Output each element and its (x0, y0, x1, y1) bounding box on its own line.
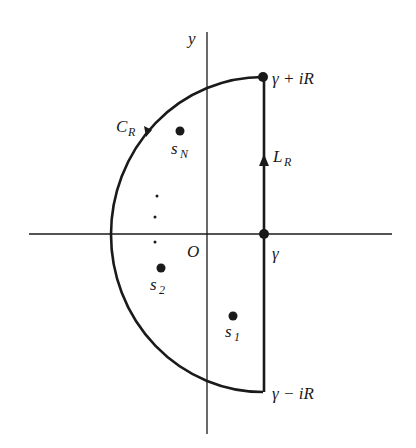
arc-label: C R (116, 117, 136, 139)
svg-text:s: s (171, 139, 178, 158)
contour-diagram: y O γ γ + iR γ − iR C R L R s N s 2 s 1 (0, 0, 416, 448)
y-axis-label: y (186, 29, 196, 48)
s-2-label: s 2 (150, 275, 165, 297)
s-1-label: s 1 (225, 322, 240, 344)
singularity-s-1 (229, 312, 238, 321)
gamma-label: γ (272, 244, 280, 263)
ellipsis-dot (154, 241, 157, 244)
svg-text:C: C (116, 117, 128, 136)
svg-text:1: 1 (234, 330, 240, 344)
svg-text:2: 2 (159, 283, 165, 297)
ellipsis-dot (156, 195, 159, 198)
svg-text:L: L (272, 147, 282, 166)
point-gamma (259, 229, 269, 239)
svg-text:s: s (150, 275, 157, 294)
line-arrow-icon (259, 154, 269, 166)
ellipsis-dot (154, 216, 157, 219)
s-n-label: s N (171, 139, 189, 161)
singularity-s-n (176, 127, 185, 136)
line-label: L R (272, 147, 292, 169)
svg-text:R: R (127, 125, 136, 139)
svg-text:R: R (283, 155, 292, 169)
bottom-point-label: γ − iR (272, 384, 314, 403)
diagram-canvas: y O γ γ + iR γ − iR C R L R s N s 2 s 1 (0, 0, 416, 448)
point-top (258, 72, 268, 82)
origin-label: O (187, 242, 199, 261)
singularity-s-2 (157, 264, 166, 273)
svg-text:s: s (225, 322, 232, 341)
svg-text:N: N (179, 147, 189, 161)
top-point-label: γ + iR (272, 69, 314, 88)
